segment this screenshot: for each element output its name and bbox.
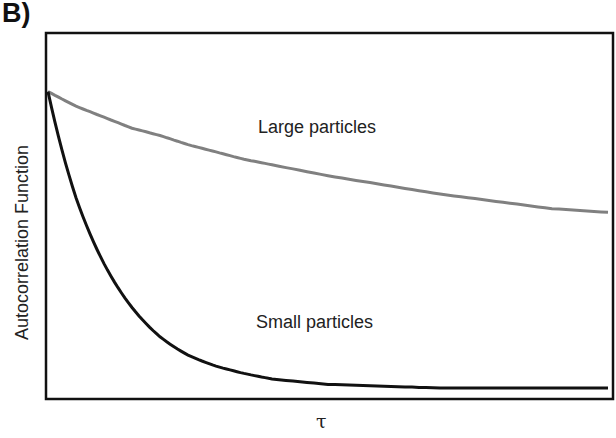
y-axis-label: Autocorrelation Function <box>12 133 33 353</box>
series-large-particles <box>48 92 608 213</box>
plot-area <box>0 0 616 438</box>
annotation-small-particles: Small particles <box>256 312 373 333</box>
x-axis-label: τ <box>316 410 327 432</box>
annotation-large-particles: Large particles <box>258 117 376 138</box>
plot-frame <box>46 33 613 399</box>
